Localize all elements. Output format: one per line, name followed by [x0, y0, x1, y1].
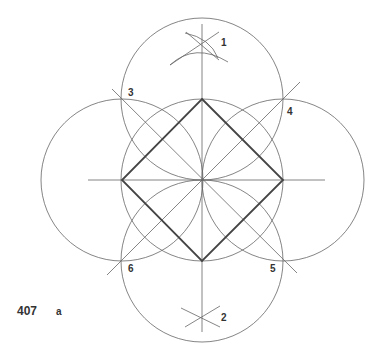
- tick-1b: [170, 32, 219, 65]
- point-label-3: 3: [128, 88, 134, 98]
- tick-1: [186, 32, 219, 60]
- point-label-4: 4: [287, 107, 293, 117]
- point-label-5: 5: [270, 264, 276, 274]
- geometry-construction: [0, 0, 380, 356]
- diagonal-6-4: [107, 82, 300, 275]
- point-label-2: 2: [221, 313, 227, 323]
- point-label-6: 6: [128, 264, 134, 274]
- figure-sublabel: a: [56, 307, 62, 317]
- tick-2b: [185, 306, 220, 327]
- point-label-1: 1: [221, 38, 227, 48]
- diagonal-3-5: [112, 89, 297, 273]
- figure-number: 407: [17, 305, 37, 317]
